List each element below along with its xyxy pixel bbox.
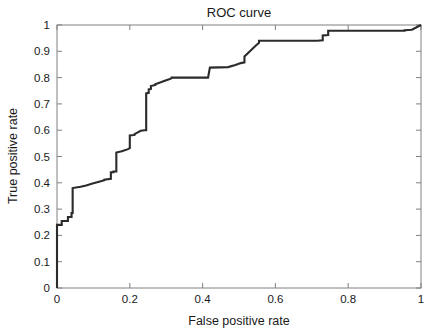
x-tick-label: 0 (54, 293, 60, 305)
x-tick-label: 1 (418, 293, 424, 305)
x-tick-label: 0.6 (267, 293, 283, 305)
y-axis-ticks: 00.10.20.30.40.50.60.70.80.91 (34, 19, 421, 294)
y-tick-label: 0.5 (34, 151, 50, 163)
y-tick-label: 0.1 (34, 256, 50, 268)
y-tick-label: 0.3 (34, 203, 50, 215)
data-series-group (57, 25, 421, 288)
chart-canvas: ROC curve 00.20.40.60.81 00.10.20.30.40.… (0, 0, 440, 332)
y-tick-label: 1 (44, 19, 50, 31)
x-axis-ticks: 00.20.40.60.81 (54, 25, 424, 305)
y-tick-label: 0.9 (34, 45, 50, 57)
chart-title-group: ROC curve (207, 5, 271, 20)
roc-curve-figure: ROC curve 00.20.40.60.81 00.10.20.30.40.… (0, 0, 440, 332)
chart-title: ROC curve (207, 5, 271, 20)
y-tick-label: 0.4 (34, 177, 51, 189)
axis-labels-group: False positive rate True positive rate (6, 108, 290, 328)
x-tick-label: 0.2 (122, 293, 138, 305)
x-tick-label: 0.8 (340, 293, 356, 305)
y-axis-label: True positive rate (6, 108, 20, 204)
y-tick-label: 0.8 (34, 72, 50, 84)
y-tick-label: 0.2 (34, 229, 50, 241)
y-tick-label: 0.6 (34, 124, 50, 136)
y-tick-label: 0.7 (34, 98, 50, 110)
roc-curve-line (57, 25, 421, 288)
x-axis-label: False positive rate (188, 314, 289, 328)
x-tick-label: 0.4 (195, 293, 212, 305)
y-tick-label: 0 (44, 282, 50, 294)
